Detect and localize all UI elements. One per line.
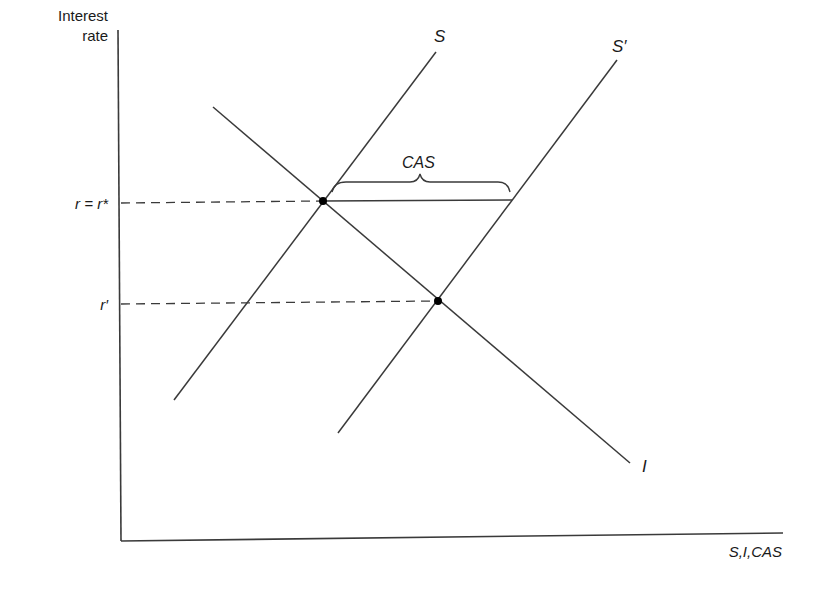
s-curve — [174, 52, 436, 400]
r-star-dashed-guide — [121, 201, 323, 203]
r-prime-tick-label: r′ — [100, 296, 109, 313]
chart-svg: S S′ I CAS r = r* r′ S,I,CAS — [0, 0, 818, 591]
cas-segment — [323, 200, 512, 201]
s-prime-curve — [338, 60, 617, 433]
y-axis — [118, 30, 121, 541]
s-curve-label: S — [434, 27, 446, 46]
x-axis — [121, 533, 783, 541]
equilibrium-dot-r-prime — [434, 297, 442, 305]
s-prime-curve-label: S′ — [612, 37, 627, 56]
cas-label: CAS — [402, 154, 435, 171]
equilibrium-dot-r-star — [319, 197, 327, 205]
r-prime-dashed-guide — [121, 301, 438, 304]
cas-brace — [332, 174, 510, 192]
i-curve-label: I — [642, 457, 647, 476]
r-star-tick-label: r = r* — [75, 195, 109, 212]
x-axis-label: S,I,CAS — [729, 543, 782, 560]
